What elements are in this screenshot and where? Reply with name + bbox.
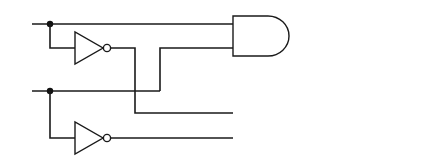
inverter-x-bubble bbox=[103, 44, 110, 51]
inverter-y bbox=[75, 122, 103, 154]
wire-x-to-inverter1 bbox=[50, 24, 75, 48]
wire-y-to-inverter2 bbox=[50, 91, 75, 138]
inverter-x bbox=[75, 32, 103, 64]
wire-xprime-to-and2 bbox=[111, 48, 233, 113]
and-gate-1 bbox=[233, 16, 289, 56]
logic-circuit-diagram bbox=[0, 0, 441, 161]
inverter-y-bubble bbox=[103, 134, 110, 141]
wire-y-to-and1 bbox=[160, 48, 233, 91]
